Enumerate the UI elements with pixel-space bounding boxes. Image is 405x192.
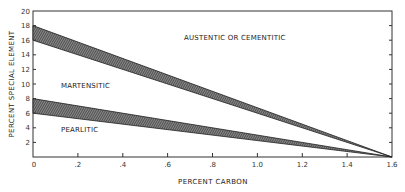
x-tick-label: .6 [164,161,171,169]
y-tick-labels: 2 4 6 8 10 12 14 16 18 20 [21,8,30,147]
region-label-austenitic: AUSTENTIC OR CEMENTITIC [184,34,286,42]
x-tick-label: .8 [209,161,216,169]
x-tick-label: 1.4 [342,161,354,169]
x-tick-label: .2 [75,161,82,169]
x-tick-labels: 0 .2 .4 .6 .8 1.0 1.2 1.4 1.6 [32,161,398,169]
x-tick-label: 1.0 [252,161,263,169]
region-label-martensitic: MARTENSITIC [61,82,110,90]
y-tick-label: 12 [21,66,30,74]
y-tick-label: 16 [21,37,30,45]
y-tick-label: 14 [21,51,30,59]
y-tick-label: 20 [21,8,30,16]
chart-svg: 2 4 6 8 10 12 14 16 18 20 0 .2 .4 .6 .8 … [0,0,405,192]
x-tick-label: 0 [32,161,36,169]
y-tick-label: 8 [26,95,30,103]
y-tick-label: 2 [26,139,30,147]
y-tick-label: 4 [26,124,31,132]
region-label-pearlitic: PEARLITIC [61,126,98,134]
y-tick-label: 6 [26,110,31,118]
x-tick-label: .4 [119,161,126,169]
x-tick-label: 1.6 [386,161,398,169]
y-tick-label: 18 [21,22,30,30]
y-tick-label: 10 [21,81,30,89]
y-axis-title: PERCENT SPECIAL ELEMENT [8,30,16,137]
upper-boundary-band [33,26,392,157]
x-axis [78,153,347,157]
x-axis-title: PERCENT CARBON [178,178,248,186]
x-tick-label: 1.2 [297,161,308,169]
